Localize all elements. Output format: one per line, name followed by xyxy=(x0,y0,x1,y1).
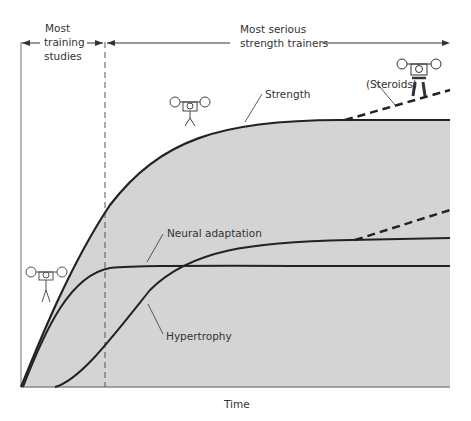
hypertrophy-label: Hypertrophy xyxy=(166,330,232,342)
strength-adaptation-diagram: Most training studies Most serious stren… xyxy=(0,0,471,421)
strength-area xyxy=(21,120,450,387)
neural-adaptation-label: Neural adaptation xyxy=(167,227,262,239)
weightlifter-medium-icon xyxy=(170,97,210,126)
steroids-label: (Steroids) xyxy=(366,78,417,90)
strength-label: Strength xyxy=(265,88,310,100)
steroids-curve xyxy=(345,90,450,120)
phase-label-1: Most training studies xyxy=(44,22,88,62)
x-axis-label: Time xyxy=(223,398,250,410)
phase-label-2: Most serious strength trainers xyxy=(240,23,328,49)
